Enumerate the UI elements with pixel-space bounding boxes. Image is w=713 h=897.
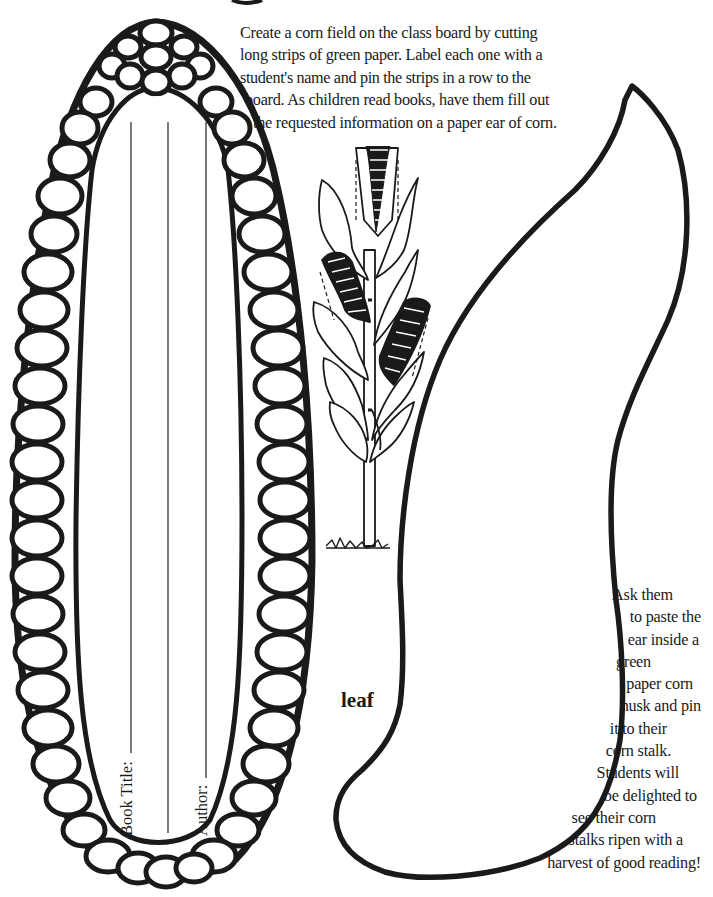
side-instructions: Ask them to paste the ear inside a green…	[501, 584, 701, 874]
side-line: green	[501, 651, 701, 673]
corn-ear-bottom-kernels	[118, 853, 212, 887]
book-title-label: Book Title:	[117, 761, 137, 836]
side-line: corn stalk.	[501, 740, 701, 762]
side-line: ear inside a	[501, 629, 701, 651]
intro-instructions: Create a corn field on the class board b…	[240, 22, 710, 134]
leaf-label: leaf	[341, 688, 374, 713]
intro-line: student's name and pin the strips in a r…	[240, 67, 710, 89]
side-line: husk and pin	[501, 695, 701, 717]
side-line: to paste the	[501, 606, 701, 628]
heading-fragment	[232, 0, 262, 3]
intro-line: long strips of green paper. Label each o…	[240, 44, 710, 66]
author-label: Author:	[192, 785, 212, 836]
side-line: see their corn	[501, 807, 701, 829]
corn-ear-writing-area	[86, 96, 232, 835]
side-line: be delighted to	[501, 785, 701, 807]
intro-line: Create a corn field on the class board b…	[240, 22, 710, 44]
side-line: Ask them	[501, 584, 701, 606]
intro-line: the requested information on a paper ear…	[240, 112, 710, 134]
side-line: stalks ripen with a	[501, 829, 701, 851]
corn-stalk-with-ears-icon	[313, 146, 430, 548]
intro-line: board. As children read books, have them…	[240, 89, 710, 111]
side-line: harvest of good reading!	[501, 852, 701, 874]
side-line: paper corn	[501, 673, 701, 695]
side-line: it to their	[501, 718, 701, 740]
side-line: Students will	[501, 762, 701, 784]
